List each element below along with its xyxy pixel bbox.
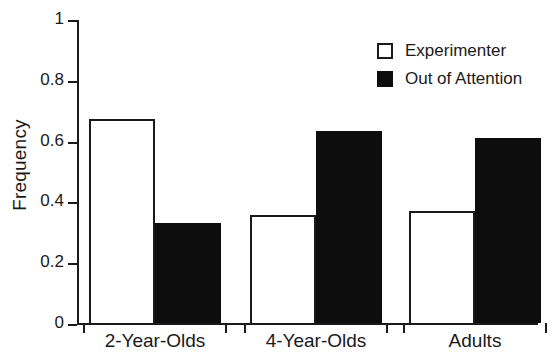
y-tick-mark: 0.8 [68, 81, 77, 83]
y-axis-line [77, 20, 79, 325]
bar-out-of-attention [475, 138, 541, 323]
open-square-icon [377, 43, 393, 59]
x-axis-label-1: 2-Year-Olds [105, 330, 206, 352]
legend-item: Out of Attention [377, 66, 522, 92]
x-tick-mark [545, 323, 547, 333]
bar-experimenter [409, 211, 475, 323]
x-tick-mark [83, 323, 85, 333]
x-axis-label-2: 4-Year-Olds [266, 330, 367, 352]
bar-out-of-attention [316, 131, 382, 323]
y-tick-label: 0.2 [40, 252, 64, 272]
y-tick-mark: 0.4 [68, 202, 77, 204]
y-tick-label: 0.8 [40, 70, 64, 90]
bar-experimenter [250, 215, 316, 323]
y-tick-label: 0.4 [40, 191, 64, 211]
x-tick-mark [225, 323, 227, 333]
y-tick-mark: 0 [68, 324, 77, 326]
x-axis-line [77, 323, 538, 325]
y-tick-mark: 0.6 [68, 142, 77, 144]
y-tick-mark: 0.2 [68, 263, 77, 265]
y-axis-title: Frequency [0, 0, 40, 330]
x-tick-mark [386, 323, 388, 333]
bar-out-of-attention [155, 223, 221, 323]
x-axis-label-3: Adults [449, 330, 502, 352]
y-axis-title-text: Frequency [9, 119, 31, 211]
legend-item-label: Experimenter [405, 41, 506, 61]
legend-item-label: Out of Attention [405, 69, 522, 89]
y-tick-label: 0.6 [40, 131, 64, 151]
filled-square-icon [377, 71, 393, 87]
x-tick-mark [244, 323, 246, 333]
y-tick-label: 1 [55, 9, 64, 29]
legend: ExperimenterOut of Attention [377, 38, 522, 94]
x-tick-mark [403, 323, 405, 333]
y-tick-label: 0 [55, 313, 64, 333]
legend-item: Experimenter [377, 38, 522, 64]
bar-chart: Frequency 00.20.40.60.81 2-Year-Olds4-Ye… [0, 0, 557, 362]
y-tick-mark: 1 [68, 20, 77, 22]
bar-experimenter [89, 119, 155, 323]
